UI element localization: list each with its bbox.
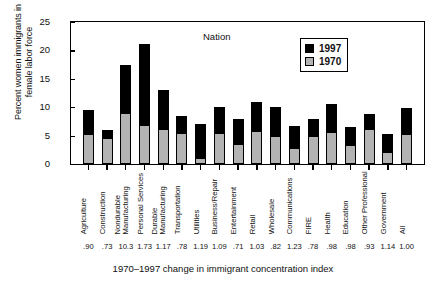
x-category-label: Government (380, 168, 388, 234)
bar-education (345, 127, 356, 164)
bar-segment-1970 (120, 113, 131, 164)
nation-annotation: Nation (203, 31, 230, 42)
x-category-label: Transportation (174, 168, 182, 234)
bar-business-repair (214, 107, 225, 164)
bar-segment-1970 (345, 145, 356, 164)
bar-fire (308, 119, 319, 164)
x-category-label: All (398, 168, 406, 234)
bar-entertainment (233, 119, 244, 164)
bar-segment-1970 (364, 129, 375, 164)
x-axis-title: 1970–1997 change in immigrant concentrat… (0, 263, 446, 274)
index-value: 1.00 (392, 242, 422, 251)
x-category-label: Health (324, 168, 332, 234)
bar-government (382, 134, 393, 164)
x-category-label: Utilities (192, 168, 200, 234)
x-category-label: NondurableManufacturing (114, 168, 130, 234)
x-category-label: Agriculture (80, 168, 88, 234)
y-tick-label: 5 (28, 130, 50, 141)
bar-segment-1970 (102, 138, 113, 164)
bar-segment-1970 (83, 134, 94, 164)
y-axis-title-line-1: Percent women immigrants in (13, 0, 24, 142)
legend-swatch-1997-icon (305, 44, 314, 53)
y-tick-label: 0 (28, 158, 50, 169)
bars-layer (71, 22, 424, 164)
y-tick-label: 15 (28, 73, 50, 84)
bar-durable-manufacturing (158, 90, 169, 164)
y-tick-label: 25 (28, 16, 50, 27)
x-category-label: Communications (286, 168, 294, 234)
index-values-row: .90.7310.31.731.17.781.191.09.711.03.821… (71, 242, 424, 254)
x-category-label: Personal Services (136, 168, 144, 234)
bar-segment-1970 (176, 133, 187, 164)
legend-item-1970: 1970 (305, 55, 341, 68)
bar-segment-1970 (195, 158, 206, 164)
bar-construction (102, 130, 113, 164)
bar-agriculture (83, 110, 94, 164)
bar-wholesale (270, 107, 281, 164)
x-category-label: FIRE (305, 168, 313, 234)
x-category-label: Business/Repair (211, 168, 219, 234)
bar-segment-1970 (139, 125, 150, 164)
x-axis-category-labels: AgricultureConstructionNondurableManufac… (71, 168, 424, 234)
y-tick-label: 20 (28, 44, 50, 55)
x-category-label: Construction (99, 168, 107, 234)
bar-other-professional (364, 114, 375, 164)
x-category-label: Wholesale (267, 168, 275, 234)
legend: 1997 1970 (300, 38, 348, 72)
legend-label-1997: 1997 (319, 43, 341, 54)
bar-segment-1970 (251, 131, 262, 164)
bar-segment-1970 (308, 136, 319, 164)
legend-label-1970: 1970 (319, 56, 341, 67)
x-category-label: Other Professional (361, 168, 369, 234)
x-category-label: Education (342, 168, 350, 234)
bar-nondurable-manufacturing (120, 65, 131, 164)
y-tick-label: 10 (28, 101, 50, 112)
x-category-label: DurableManufacturing (151, 168, 167, 234)
bar-segment-1970 (214, 133, 225, 164)
bar-segment-1970 (289, 148, 300, 164)
bar-transportation (176, 116, 187, 164)
bar-segment-1970 (233, 144, 244, 164)
bar-segment-1970 (270, 136, 281, 164)
bar-all (401, 108, 412, 164)
bar-segment-1970 (382, 152, 393, 164)
bar-retail (251, 102, 262, 164)
x-category-label: Retail (249, 168, 257, 234)
bar-communications (289, 126, 300, 164)
legend-item-1997: 1997 (305, 42, 341, 55)
chart-figure: Percent women immigrants in female labor… (0, 0, 446, 283)
bar-segment-1970 (326, 132, 337, 164)
bar-segment-1970 (401, 134, 412, 164)
bar-health (326, 104, 337, 164)
bar-utilities (195, 124, 206, 164)
legend-swatch-1970-icon (305, 57, 314, 66)
bar-segment-1970 (158, 129, 169, 164)
x-category-label: Entertainment (230, 168, 238, 234)
bar-personal-services (139, 44, 150, 164)
